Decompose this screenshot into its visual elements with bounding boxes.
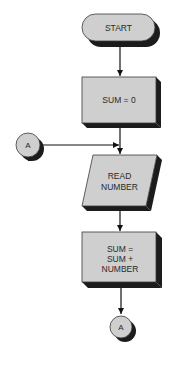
read-input-parallelogram: READ NUMBER [82, 155, 162, 211]
connector-in-label: A [25, 141, 31, 150]
add-process-box: SUM = SUM + NUMBER [82, 232, 162, 288]
add-shadow-bottom [82, 282, 162, 288]
add-shadow-right [156, 232, 162, 288]
connector-out: A [110, 316, 136, 342]
init-shadow-bottom [82, 123, 161, 128]
init-label: SUM = 0 [102, 95, 136, 105]
add-label-line1: SUM = [107, 244, 133, 254]
connector-in: A [16, 133, 44, 161]
init-process-box: SUM = 0 [82, 77, 161, 128]
add-label-line3: NUMBER [102, 264, 139, 274]
start-label: START [105, 23, 132, 33]
init-shadow-right [156, 77, 161, 128]
connector-out-label: A [118, 323, 124, 332]
read-label-line1: READ [108, 171, 132, 181]
read-label-line2: NUMBER [101, 182, 138, 192]
flowchart: START SUM = 0 A READ NUMBER SUM = SUM + … [0, 0, 174, 365]
start-terminal: START [82, 14, 160, 47]
add-label-line2: SUM + [107, 254, 133, 264]
read-shadow-bottom [82, 206, 151, 211]
